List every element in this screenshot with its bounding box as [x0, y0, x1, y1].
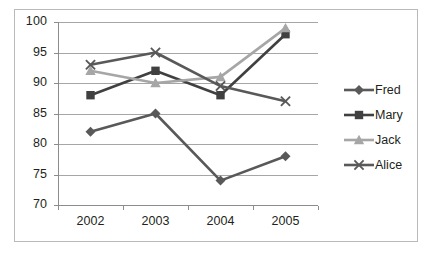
legend-label: Fred: [375, 83, 401, 97]
legend-marker-diamond-icon: [344, 83, 374, 97]
legend-label: Mary: [375, 108, 403, 122]
series-jack: [85, 23, 290, 87]
series-line: [91, 34, 286, 95]
legend-item-mary[interactable]: Mary: [344, 104, 403, 126]
line-chart-figure: 100959085807570 2002200320042005 FredMar…: [0, 0, 434, 258]
legend-item-jack[interactable]: Jack: [344, 129, 401, 151]
data-point-marker: [151, 67, 159, 75]
data-point-marker: [280, 23, 290, 32]
plot-area: 100959085807570 2002200320042005 FredMar…: [0, 0, 434, 258]
data-point-marker: [86, 127, 96, 137]
legend-marker-x-icon: [344, 158, 374, 172]
legend-label: Alice: [375, 158, 402, 172]
legend-marker-triangle-icon: [344, 133, 374, 147]
legend-item-fred[interactable]: Fred: [344, 79, 401, 101]
legend-marker-square-icon: [344, 108, 374, 122]
series-line: [91, 114, 286, 181]
series-fred: [86, 109, 291, 186]
legend-item-alice[interactable]: Alice: [344, 154, 402, 176]
series-line: [91, 28, 286, 83]
legend-label: Jack: [375, 133, 401, 147]
data-point-marker: [216, 91, 224, 99]
data-point-marker: [281, 151, 291, 161]
series-mary: [86, 30, 289, 99]
data-point-marker: [86, 91, 94, 99]
